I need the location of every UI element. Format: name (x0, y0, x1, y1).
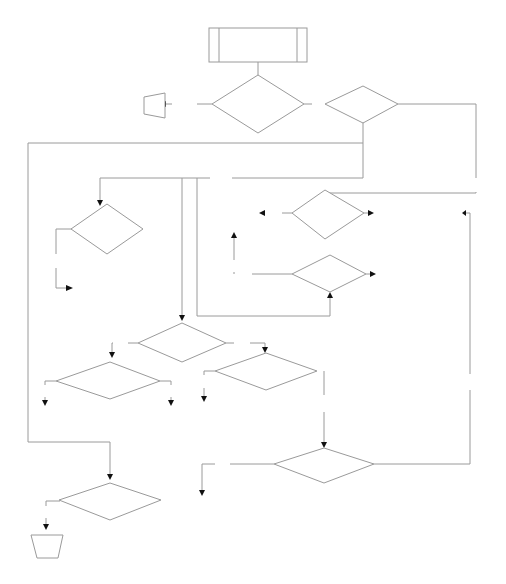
flowchart-canvas (0, 0, 506, 584)
decision-should-be-enhanced[interactable] (59, 483, 161, 520)
connector-b[interactable] (31, 535, 63, 558)
arrow-to-can-s3-e-icon (321, 442, 327, 448)
decision-can-s2-be-added[interactable] (292, 190, 364, 239)
arrow-to-should-s1-icon (109, 352, 115, 358)
decision-can-s3-added-to-s2[interactable] (215, 353, 317, 390)
decision-complete-sufield[interactable] (325, 86, 398, 123)
connector-a[interactable] (144, 93, 165, 118)
arrow-up-to-111-icon (231, 232, 237, 238)
arrow-to-enhanced-icon (107, 474, 113, 480)
arrow-to-124-icon (42, 400, 48, 406)
arrow-to-113-icon (199, 490, 205, 496)
arrow-to-can-f-icon (327, 292, 333, 298)
arrow-to-harmful-icon (179, 315, 185, 321)
arrow-to-521-icon (370, 271, 376, 277)
decision-dm-problem[interactable] (212, 75, 304, 133)
decision-optimal-action[interactable] (71, 204, 143, 254)
arrow-no-to-511-icon (462, 210, 466, 216)
arrow-to-optimal-icon (97, 200, 103, 206)
arrow-to-can-s3-s2-icon (262, 347, 268, 353)
connector-lines (28, 62, 476, 524)
arrow-to-116-icon (66, 285, 73, 291)
decision-can-f-be-added[interactable] (292, 255, 366, 292)
arrow-to-111-icon (259, 210, 265, 216)
arrow-to-b-icon (43, 524, 49, 530)
decision-can-s3-added-to-e[interactable] (274, 448, 374, 483)
arrow-to-112-icon (201, 396, 207, 402)
arrow-to-511-icon (368, 210, 374, 216)
decision-harmful-interaction[interactable] (138, 323, 226, 362)
decision-should-s1-contact-s2[interactable] (56, 362, 160, 399)
start-process-box[interactable] (209, 28, 307, 62)
arrow-to-121-icon (168, 400, 174, 406)
